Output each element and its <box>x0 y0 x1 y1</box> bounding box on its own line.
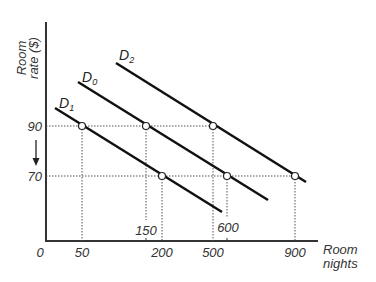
label-d2: D2 <box>119 47 134 65</box>
y-tick-90: 90 <box>28 119 43 134</box>
x-tick-600: 600 <box>217 220 239 235</box>
demand-chart: Room rate ($) D2 D0 D1 90 70 0 50 150 <box>0 0 376 282</box>
x-tick-500: 500 <box>202 245 224 260</box>
x-tick-50: 50 <box>75 245 90 260</box>
y-tick-70: 70 <box>28 169 43 184</box>
x-axis-label-line2: nights <box>323 256 358 271</box>
y-axis-label-line2: rate ($) <box>26 37 41 79</box>
price-down-arrow <box>33 140 40 166</box>
x-tick-900: 900 <box>284 245 306 260</box>
x-tick-150: 150 <box>135 223 157 238</box>
origin-label: 0 <box>36 245 44 260</box>
x-tick-200: 200 <box>150 245 173 260</box>
label-d1: D1 <box>59 95 74 113</box>
label-d0: D0 <box>82 69 97 87</box>
guide-lines <box>46 126 295 241</box>
x-axis-label-line1: Room <box>323 242 358 257</box>
